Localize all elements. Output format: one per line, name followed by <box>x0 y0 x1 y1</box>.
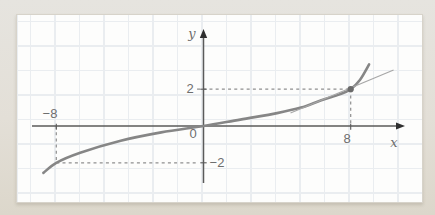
x-axis-label: x <box>390 135 398 150</box>
y-tick-label-2: 2 <box>186 81 193 96</box>
figure: y x 0 2 −2 −8 8 <box>0 0 435 215</box>
y-axis-label: y <box>187 26 196 41</box>
origin-label: 0 <box>189 126 196 141</box>
tangent-line <box>291 70 394 113</box>
x-tick-label-8: 8 <box>343 131 350 146</box>
graph-svg: y x 0 2 −2 −8 8 <box>0 0 435 215</box>
x-tick-label-neg8: −8 <box>43 106 58 121</box>
x-axis-arrowhead-icon <box>396 122 405 129</box>
y-tick-label-neg2: −2 <box>210 155 225 170</box>
marked-point <box>348 86 354 92</box>
function-curve <box>43 64 369 172</box>
y-axis-arrowhead-icon <box>200 29 207 38</box>
